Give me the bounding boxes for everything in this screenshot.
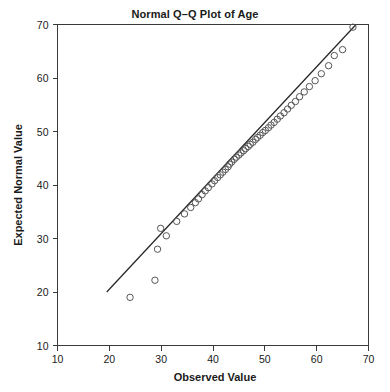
y-tick-label: 70 [37,19,49,31]
data-point-marker [288,102,294,108]
x-tick-label: 40 [207,353,219,365]
x-tick-label: 30 [155,353,167,365]
y-axis-ticks: 10203040506070 [37,19,58,352]
data-point-marker [127,294,133,300]
x-axis-ticks: 10203040506070 [52,346,375,365]
y-tick-label: 60 [37,72,49,84]
data-point-marker [339,46,345,52]
data-point-marker [306,83,312,89]
chart-canvas: 10203040506070 10203040506070 Observed V… [0,0,390,392]
y-tick-label: 20 [37,286,49,298]
y-tick-label: 10 [37,340,49,352]
data-points [127,24,356,301]
data-point-marker [163,233,169,239]
data-point-marker [217,172,223,178]
y-tick-label: 30 [37,233,49,245]
x-tick-label: 60 [311,353,323,365]
data-point-marker [331,52,337,58]
data-point-marker [152,277,158,283]
data-point-marker [220,169,226,175]
chart-axes [58,25,369,346]
data-point-marker [284,106,290,112]
data-point-marker [157,225,163,231]
data-point-marker [318,71,324,77]
qq-plot-figure: Normal Q–Q Plot of Age 10203040506070 10… [0,0,390,392]
data-point-marker [154,246,160,252]
y-tick-label: 40 [37,179,49,191]
x-tick-label: 10 [52,353,64,365]
y-axis-title: Expected Normal Value [12,124,24,246]
data-point-marker [181,211,187,217]
y-tick-label: 50 [37,126,49,138]
x-tick-label: 70 [363,353,375,365]
x-axis-title: Observed Value [174,371,257,383]
data-point-marker [301,89,307,95]
data-point-marker [312,77,318,83]
x-tick-label: 20 [103,353,115,365]
data-point-marker [325,62,331,68]
x-tick-label: 50 [259,353,271,365]
axis-frame [58,25,369,346]
data-point-marker [174,218,180,224]
